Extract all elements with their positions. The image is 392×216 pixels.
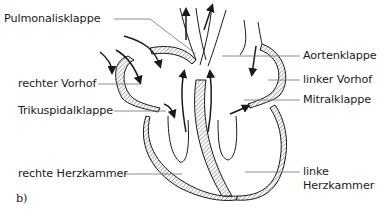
label-linke-herzkammer-line1: linke [303,165,329,178]
label-rechter-vorhof: rechter Vorhof [18,77,96,90]
subfigure-label: b) [16,192,27,205]
label-trikuspidalklappe: Trikuspidalklappe [18,104,113,117]
label-rechte-herzkammer: rechte Herzkammer [18,167,128,180]
label-linker-vorhof: linker Vorhof [303,73,372,86]
heart-wall [116,44,287,201]
label-pulmonalisklappe: Pulmonalisklappe [4,12,100,25]
label-linke-herzkammer-line2: Herzkammer [303,179,374,192]
label-mitralklappe: Mitralklappe [303,93,371,106]
label-aortenklappe: Aortenklappe [303,49,377,62]
